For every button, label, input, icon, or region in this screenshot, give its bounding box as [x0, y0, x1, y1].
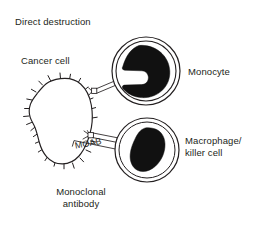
- diagram-svg: [0, 0, 261, 231]
- monocyte-label: Monocyte: [188, 66, 230, 78]
- macrophage-label-line2: killer cell: [185, 147, 223, 158]
- cancer-cell-label: Cancer cell: [21, 55, 70, 67]
- monoclonal-antibody-label-line2: antibody: [63, 198, 100, 209]
- monoclonal-antibody-label: Monoclonalantibody: [43, 186, 119, 209]
- page-title: Direct destruction: [15, 16, 91, 28]
- monoclonal-antibody-label-line1: Monoclonal: [56, 186, 106, 197]
- cancer-cell: [24, 73, 98, 169]
- monocyte: [112, 37, 180, 105]
- macrophage-label-line1: Macrophage/: [185, 135, 242, 146]
- macrophage: [115, 118, 179, 182]
- macrophage-label: Macrophage/killer cell: [185, 135, 242, 158]
- figure-canvas: Direct destruction Cancer cell Monocyte …: [0, 0, 261, 231]
- cancer-cell-membrane: [29, 78, 92, 164]
